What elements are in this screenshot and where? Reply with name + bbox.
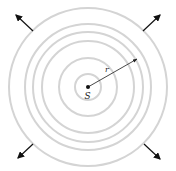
outward-arrow-icon-2: [143, 15, 160, 31]
outward-arrow-icon-1: [16, 15, 33, 31]
radius-arrow: [88, 59, 137, 87]
source-label: S: [85, 91, 91, 101]
outward-arrow-icon-3: [18, 144, 33, 158]
source-point: [86, 85, 90, 89]
outward-arrow-icon-4: [144, 144, 160, 159]
wavefront-diagram: r S: [0, 0, 176, 171]
diagram-svg: r S: [0, 0, 176, 171]
